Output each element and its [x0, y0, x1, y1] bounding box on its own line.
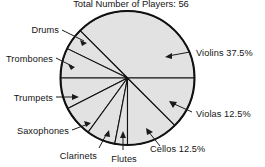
label-cellos: Cellos 12.5%: [150, 144, 205, 154]
pie-chart-figure: Total Number of Players: 56: [0, 0, 265, 167]
chart-title: Total Number of Players: 56: [73, 0, 189, 9]
label-flutes: Flutes: [111, 154, 137, 164]
pie-slices: [60, 11, 194, 145]
label-drums: Drums: [31, 25, 59, 35]
pie-chart-svg: Total Number of Players: 56: [0, 0, 265, 167]
label-saxophones: Saxophones: [17, 126, 69, 136]
label-violins: Violins 37.5%: [196, 48, 253, 58]
label-trumpets: Trumpets: [14, 93, 54, 103]
label-trombones: Trombones: [6, 54, 53, 64]
label-violas: Violas 12.5%: [196, 109, 251, 119]
label-clarinets: Clarinets: [60, 151, 97, 161]
